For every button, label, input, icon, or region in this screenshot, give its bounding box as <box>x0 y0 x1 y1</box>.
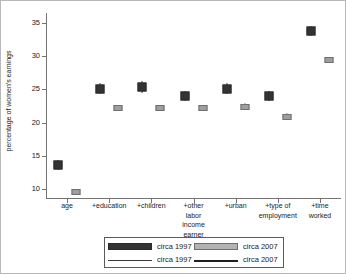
legend-item[interactable]: circa 2007 <box>194 253 280 266</box>
marker-box <box>198 105 207 111</box>
marker-box <box>96 84 105 93</box>
y-tick-label: 15 <box>32 151 40 160</box>
chart-legend: circa 1997circa 2007circa 1997circa 2007 <box>104 237 284 268</box>
legend-label: circa 1997 <box>157 242 192 251</box>
legend-label: circa 2007 <box>243 255 278 264</box>
y-tick-label: 20 <box>32 118 40 127</box>
y-axis-title-text: percentage of women's earnings <box>5 51 12 152</box>
y-tick-mark <box>42 23 46 24</box>
y-axis-line <box>46 13 47 199</box>
marker-box <box>306 26 315 35</box>
legend-row: circa 1997circa 2007 <box>108 240 280 253</box>
marker-box <box>282 114 291 120</box>
x-axis-label-line: worked <box>294 211 346 221</box>
y-tick-label: 10 <box>32 184 40 193</box>
marker-box <box>222 84 231 93</box>
legend-item[interactable]: circa 2007 <box>194 240 280 253</box>
y-tick-mark <box>42 189 46 190</box>
y-tick-mark <box>42 56 46 57</box>
legend-thick-line-icon <box>194 256 238 263</box>
y-tick-label: 35 <box>32 18 40 27</box>
legend-dark-swatch-icon <box>108 243 152 250</box>
legend-item[interactable]: circa 1997 <box>108 253 194 266</box>
marker-box <box>156 105 165 111</box>
legend-item[interactable]: circa 1997 <box>108 240 194 253</box>
marker-box <box>324 57 333 63</box>
marker-box <box>114 105 123 111</box>
marker-box <box>138 82 147 91</box>
marker-box <box>180 92 189 101</box>
legend-row: circa 1997circa 2007 <box>108 253 280 266</box>
marker-box <box>264 92 273 101</box>
x-axis-label-line: income <box>168 220 220 230</box>
legend-thin-line-icon <box>108 256 152 263</box>
legend-label: circa 1997 <box>157 255 192 264</box>
legend-light-swatch-icon <box>194 243 238 250</box>
legend-label: circa 2007 <box>243 242 278 251</box>
x-axis-label-line: +time <box>294 201 346 211</box>
x-axis-label: +timeworked <box>294 201 346 220</box>
marker-box <box>72 189 81 195</box>
y-axis-title: percentage of women's earnings <box>1 1 15 201</box>
marker-box <box>54 161 63 170</box>
y-tick-mark <box>42 123 46 124</box>
y-tick-mark <box>42 156 46 157</box>
x-axis-label-line: labor <box>168 211 220 221</box>
y-tick-label: 25 <box>32 84 40 93</box>
y-tick-label: 30 <box>32 51 40 60</box>
plot-area: 101520253035 <box>46 13 341 199</box>
chart-figure: percentage of women's earnings 101520253… <box>0 0 346 274</box>
marker-box <box>240 104 249 110</box>
y-tick-mark <box>42 89 46 90</box>
